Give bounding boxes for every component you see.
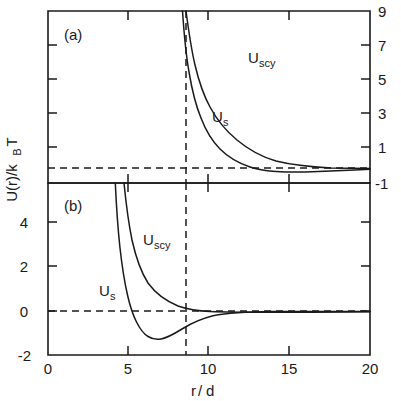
- panel-b-label-uscy-main: U: [143, 231, 154, 248]
- panel-a-tag: (a): [64, 26, 82, 43]
- panel-b-label-us: U s: [99, 282, 116, 302]
- panel-a-curve-uscy: [186, 11, 370, 169]
- panel-b-top-ticks: [128, 183, 289, 192]
- panel-a-label-us: U s: [212, 108, 229, 128]
- panel-a-label-uscy: U scy: [248, 49, 276, 69]
- panel-b-ytick-0: 0: [20, 303, 28, 320]
- panel-b-curve-us: [115, 183, 370, 339]
- yaxis-title-part2: T: [3, 137, 20, 146]
- panel-a-ytick-neg1: -1: [375, 175, 388, 192]
- panel-a-ytick-1: 1: [378, 139, 386, 156]
- xaxis-title-r: r: [191, 382, 196, 399]
- panel-a-label-uscy-main: U: [248, 49, 259, 66]
- panel-b-tag: (b): [64, 197, 82, 214]
- xtick-0: 0: [44, 360, 52, 377]
- panel-a-right-ticks: [361, 45, 370, 147]
- panel-b-label-us-sub: s: [110, 290, 116, 302]
- xaxis-title-d: d: [206, 382, 214, 399]
- panel-a-ytick-7: 7: [378, 37, 386, 54]
- panel-b-label-uscy: U scy: [143, 231, 171, 251]
- panel-b-right-ticks: [361, 222, 370, 311]
- panel-a-bottom-ticks: [128, 174, 289, 183]
- panel-b-ytick-4: 4: [20, 214, 28, 231]
- xtick-20: 20: [362, 360, 379, 377]
- panel-b-label-uscy-sub: scy: [154, 239, 171, 251]
- panel-a-frame: [48, 11, 370, 183]
- panel-b-frame: [48, 183, 370, 355]
- panel-a-ytick-5: 5: [378, 71, 386, 88]
- panel-a-top-ticks: [128, 11, 289, 20]
- xtick-10: 10: [200, 360, 217, 377]
- panel-b-left-ticks: [48, 222, 57, 311]
- xtick-5: 5: [124, 360, 132, 377]
- panel-b: 4 2 0 -2 (b) U scy U s: [18, 183, 370, 364]
- xaxis-tick-labels: 0 5 10 15 20: [44, 360, 379, 377]
- figure-container: 9 7 5 3 1 -1 (a) U scy U s: [0, 0, 401, 401]
- panel-a-ytick-9: 9: [378, 3, 386, 20]
- panel-a-ytick-3: 3: [378, 105, 386, 122]
- panel-a-label-uscy-sub: scy: [259, 57, 276, 69]
- xaxis-title-slash: /: [198, 382, 203, 399]
- plot-svg: 9 7 5 3 1 -1 (a) U scy U s: [0, 0, 401, 401]
- panel-a-label-us-sub: s: [223, 116, 229, 128]
- xaxis-title: r / d: [191, 382, 214, 399]
- xtick-15: 15: [281, 360, 298, 377]
- panel-b-ytick-neg2: -2: [18, 347, 31, 364]
- yaxis-title: U(r)/k B T: [3, 137, 23, 201]
- panel-b-ytick-2: 2: [20, 258, 28, 275]
- yaxis-title-sub: B: [11, 148, 23, 155]
- panel-a-left-ticks: [48, 45, 57, 147]
- yaxis-title-part1: U(r)/k: [3, 164, 20, 202]
- panel-b-label-us-main: U: [99, 282, 110, 299]
- panel-a: 9 7 5 3 1 -1 (a) U scy U s: [48, 3, 388, 192]
- panel-b-bottom-ticks: [128, 346, 289, 355]
- panel-a-curve-us: [183, 11, 371, 172]
- panel-a-label-us-main: U: [212, 108, 223, 125]
